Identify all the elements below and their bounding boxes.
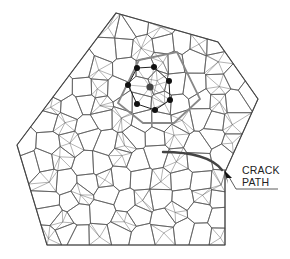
voronoi-mesh-diagram	[0, 0, 290, 259]
crack-label-line2: PATH	[242, 176, 280, 188]
mesh-cells	[17, 13, 258, 245]
crack-path	[163, 152, 222, 170]
crack-label-line1: CRACK	[242, 164, 280, 176]
crack-path-label: CRACK PATH	[242, 164, 280, 188]
